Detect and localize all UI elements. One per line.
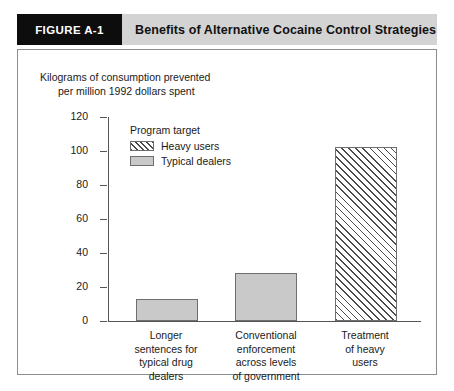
x-axis-label-conventional-enforcement: Conventional enforcement across levels o… — [211, 329, 321, 383]
y-tick-label-60: 60 — [48, 212, 88, 224]
figure-root: FIGURE A-1 Benefits of Alternative Cocai… — [0, 0, 454, 391]
y-tick-label-100: 100 — [48, 144, 88, 156]
y-tick-label-120: 120 — [48, 110, 88, 122]
y-axis-caption-line2: per million 1992 dollars spent — [40, 84, 300, 98]
figure-number-badge: FIGURE A-1 — [17, 14, 122, 45]
y-tick-mark-100 — [100, 151, 107, 152]
x-label-line: across levels — [211, 356, 321, 370]
x-axis-label-treatment-heavy-users: Treatment of heavy users — [320, 329, 410, 370]
x-axis-label-longer-sentences: Longer sentences for typical drug dealer… — [116, 329, 216, 383]
y-tick-mark-20 — [100, 287, 107, 288]
x-label-line: Treatment — [320, 329, 410, 343]
y-tick-mark-120 — [100, 117, 107, 118]
x-label-line: enforcement — [211, 343, 321, 357]
y-tick-mark-60 — [100, 219, 107, 220]
x-label-line: of government — [211, 370, 321, 384]
y-tick-mark-0 — [100, 321, 107, 322]
y-tick-label-0: 0 — [48, 314, 88, 326]
figure-header: FIGURE A-1 Benefits of Alternative Cocai… — [17, 14, 437, 45]
figure-number-label: FIGURE A-1 — [17, 14, 122, 45]
x-label-line: of heavy — [320, 343, 410, 357]
y-tick-label-40: 40 — [48, 246, 88, 258]
y-tick-mark-80 — [100, 185, 107, 186]
y-tick-mark-40 — [100, 253, 107, 254]
bar-longer-sentences — [136, 299, 198, 321]
x-label-line: typical drug — [116, 356, 216, 370]
plot-area: 0 20 40 60 80 100 120 Program target Hea… — [108, 117, 421, 321]
x-label-line: users — [320, 356, 410, 370]
x-label-line: dealers — [116, 370, 216, 384]
y-tick-label-80: 80 — [48, 178, 88, 190]
figure-title: Benefits of Alternative Cocaine Control … — [135, 14, 436, 45]
bar-treatment-heavy-users — [335, 147, 397, 321]
x-label-line: sentences for — [116, 343, 216, 357]
bar-conventional-enforcement — [235, 273, 297, 321]
x-label-line: Conventional — [211, 329, 321, 343]
y-axis-caption-line1: Kilograms of consumption prevented — [40, 71, 210, 83]
bar-series — [109, 117, 421, 321]
y-axis-caption: Kilograms of consumption prevented per m… — [40, 70, 300, 98]
x-axis-line — [108, 321, 421, 322]
x-label-line: Longer — [116, 329, 216, 343]
y-tick-label-20: 20 — [48, 280, 88, 292]
figure-body: Kilograms of consumption prevented per m… — [17, 49, 437, 375]
